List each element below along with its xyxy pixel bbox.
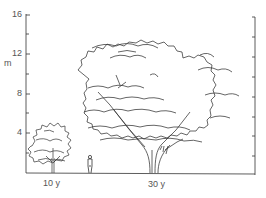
- axis-unit-label: m: [4, 59, 12, 68]
- tick-label-16: 16: [8, 10, 22, 19]
- tree-10y-label: 10 y: [43, 179, 60, 188]
- tree-30y: [78, 40, 239, 173]
- tick-label-4: 4: [8, 128, 22, 137]
- tick-label-12: 12: [8, 49, 22, 58]
- left-axis-ticks: [26, 15, 30, 153]
- ground-line: [26, 173, 255, 174]
- person-figure: [88, 155, 92, 173]
- right-axis-ticks: [252, 17, 255, 156]
- tick-label-8: 8: [8, 89, 22, 98]
- tree-30y-label: 30 y: [148, 180, 165, 189]
- tree-growth-diagram: m 16 12 8 4 10 y 30 y: [0, 0, 266, 198]
- diagram-canvas: [0, 0, 266, 198]
- tree-10y: [28, 123, 71, 173]
